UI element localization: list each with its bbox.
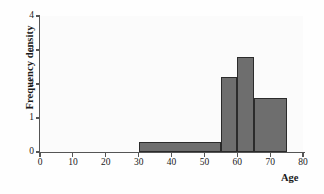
- x-axis-title: Age: [281, 172, 299, 183]
- x-tick-label: 30: [127, 158, 151, 168]
- x-tick-label: 10: [61, 158, 85, 168]
- x-tick-label: 60: [225, 158, 249, 168]
- x-tick-label: 80: [291, 158, 315, 168]
- x-tick-label: 20: [94, 158, 118, 168]
- x-tick-label: 50: [192, 158, 216, 168]
- y-tick: [36, 15, 40, 16]
- histogram-bar: [254, 98, 287, 152]
- x-tick-label: 0: [28, 158, 52, 168]
- histogram-bar: [221, 77, 237, 152]
- y-axis-title: Frequency density: [24, 0, 35, 143]
- y-tick: [36, 117, 40, 118]
- histogram-figure: 01234 01020304050607080 Frequency densit…: [0, 0, 324, 194]
- y-tick: [36, 49, 40, 50]
- x-tick-label: 40: [160, 158, 184, 168]
- histogram-bar: [139, 142, 221, 152]
- histogram-bar: [237, 57, 253, 152]
- y-tick-label: 0: [20, 147, 34, 157]
- x-tick-label: 70: [258, 158, 282, 168]
- y-tick: [36, 83, 40, 84]
